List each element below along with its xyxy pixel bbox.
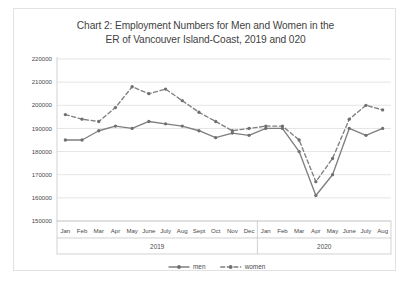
data-point-men xyxy=(114,124,117,127)
data-point-women xyxy=(164,87,167,90)
y-axis-tick-labels: 2200002100002000001900001800001700001600… xyxy=(32,55,53,224)
x-axis-tick-label: Jan xyxy=(60,227,70,234)
data-series-layer xyxy=(64,85,385,197)
x-axis-tick-label: Aug xyxy=(377,227,388,234)
x-axis-labels: JanFebMarAprMayJuneJulyAugSeptOctNovDecJ… xyxy=(57,221,391,254)
x-axis-tick-label: Feb xyxy=(277,227,288,234)
x-axis-tick-label: Aug xyxy=(177,227,188,234)
x-axis-tick-label: Nov xyxy=(227,227,239,234)
legend-label-men[interactable]: men xyxy=(193,263,206,270)
data-point-women xyxy=(147,92,150,95)
data-point-women xyxy=(64,113,67,116)
legend-marker-men xyxy=(177,265,181,269)
x-axis-tick-label: Mar xyxy=(294,227,305,234)
data-point-women xyxy=(247,127,250,130)
employment-line-chart: 2200002100002000001900001800001700001600… xyxy=(14,9,397,272)
data-point-women xyxy=(298,138,301,141)
data-point-men xyxy=(214,136,217,139)
x-axis-tick-label: June xyxy=(142,227,156,234)
chart-plot-area: 2200002100002000001900001800001700001600… xyxy=(14,9,397,272)
data-point-men xyxy=(314,194,317,197)
x-axis-tick-label: Oct xyxy=(211,227,221,234)
data-point-men xyxy=(364,134,367,137)
data-point-men xyxy=(331,173,334,176)
y-axis-tick-label: 160000 xyxy=(32,194,53,201)
x-axis-tick-label: May xyxy=(327,227,339,234)
data-point-women xyxy=(364,104,367,107)
data-point-women xyxy=(214,120,217,123)
legend-label-women[interactable]: women xyxy=(244,263,266,270)
y-axis-tick-label: 220000 xyxy=(32,55,53,62)
data-point-women xyxy=(197,111,200,114)
data-point-men xyxy=(298,150,301,153)
y-axis-tick-label: 180000 xyxy=(32,148,53,155)
x-axis-tick-label: July xyxy=(160,227,172,234)
data-point-women xyxy=(348,118,351,121)
x-axis-tick-label: June xyxy=(343,227,357,234)
data-point-women xyxy=(314,180,317,183)
x-axis-tick-label: Feb xyxy=(77,227,88,234)
y-axis-tick-label: 200000 xyxy=(32,101,53,108)
x-axis-tick-label: July xyxy=(361,227,373,234)
data-point-men xyxy=(80,138,83,141)
data-point-women xyxy=(114,106,117,109)
data-point-men xyxy=(131,127,134,130)
x-axis-table-border xyxy=(57,221,391,254)
data-point-women xyxy=(331,157,334,160)
data-point-women xyxy=(80,118,83,121)
data-point-men xyxy=(164,122,167,125)
y-axis-tick-label: 170000 xyxy=(32,171,53,178)
data-point-men xyxy=(381,127,384,130)
y-axis-tick-label: 190000 xyxy=(32,125,53,132)
data-point-women xyxy=(281,124,284,127)
chart-card: Chart 2: Employment Numbers for Men and … xyxy=(13,8,396,271)
x-axis-group-label: 2020 xyxy=(317,243,332,250)
data-point-women xyxy=(131,85,134,88)
data-point-men xyxy=(348,127,351,130)
x-axis-group-label: 2019 xyxy=(150,243,165,250)
x-axis-tick-label: Dec xyxy=(244,227,255,234)
x-axis-tick-label: May xyxy=(126,227,138,234)
data-point-men xyxy=(181,124,184,127)
data-point-women xyxy=(231,129,234,132)
data-point-men xyxy=(97,129,100,132)
x-axis-tick-label: Sept xyxy=(193,227,206,234)
series-line-men xyxy=(65,121,382,195)
data-point-women xyxy=(181,99,184,102)
data-point-women xyxy=(264,124,267,127)
x-axis-tick-label: Apr xyxy=(311,227,320,234)
y-axis-tick-label: 150000 xyxy=(32,217,53,224)
x-axis-tick-label: Apr xyxy=(111,227,120,234)
chart-legend: menwomen xyxy=(169,263,266,270)
data-point-women xyxy=(381,108,384,111)
y-axis-tick-label: 210000 xyxy=(32,78,53,85)
legend-marker-women xyxy=(229,265,233,269)
x-axis-tick-label: Jan xyxy=(261,227,271,234)
data-point-women xyxy=(97,120,100,123)
x-axis-tick-label: Mar xyxy=(94,227,105,234)
data-point-men xyxy=(147,120,150,123)
data-point-men xyxy=(64,138,67,141)
data-point-men xyxy=(197,129,200,132)
data-point-men xyxy=(247,134,250,137)
